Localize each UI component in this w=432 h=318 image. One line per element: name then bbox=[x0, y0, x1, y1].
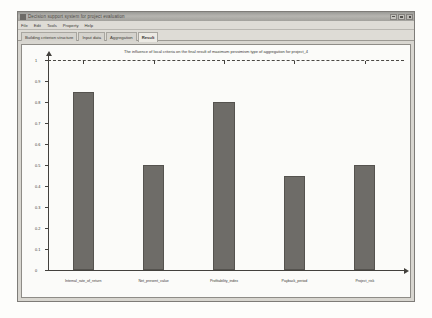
y-axis-tick bbox=[45, 60, 48, 61]
x-axis-tick bbox=[294, 61, 295, 64]
x-axis-label: Internal_rate_of_return bbox=[65, 279, 102, 283]
bar bbox=[73, 92, 94, 271]
title-bar: Decision support system for project eval… bbox=[18, 12, 414, 21]
tab-result[interactable]: Result bbox=[138, 32, 159, 42]
tab-input-data[interactable]: Input data bbox=[78, 32, 105, 41]
y-axis-tick bbox=[45, 165, 48, 166]
y-axis-tick-label: 0.4 bbox=[35, 185, 44, 189]
tab-strip: Building criterion structure Input data … bbox=[18, 30, 414, 41]
minimize-button[interactable] bbox=[390, 14, 397, 20]
y-axis-tick-label: 0.8 bbox=[35, 101, 44, 105]
x-axis-line bbox=[48, 270, 404, 271]
bar bbox=[284, 176, 305, 271]
menu-item-property[interactable]: Property bbox=[63, 23, 79, 28]
y-axis-tick bbox=[45, 81, 48, 82]
menu-item-help[interactable]: Help bbox=[85, 23, 94, 28]
bar bbox=[354, 165, 375, 270]
y-axis-line bbox=[48, 55, 49, 271]
y-axis-tick bbox=[45, 144, 48, 145]
window-title: Decision support system for project eval… bbox=[28, 14, 389, 19]
y-axis-tick bbox=[45, 102, 48, 103]
y-axis-tick-label: 0.3 bbox=[35, 206, 44, 210]
menu-item-tools[interactable]: Tools bbox=[47, 23, 57, 28]
x-axis-label: Net_present_value bbox=[139, 279, 169, 283]
x-axis-tick bbox=[83, 61, 84, 64]
menu-item-file[interactable]: File bbox=[21, 23, 28, 28]
page-background: Decision support system for project eval… bbox=[0, 0, 432, 318]
y-axis-tick bbox=[45, 249, 48, 250]
application-window: Decision support system for project eval… bbox=[17, 11, 415, 302]
bar bbox=[213, 102, 234, 270]
y-axis-tick bbox=[45, 186, 48, 187]
y-axis-tick-label: 0.5 bbox=[35, 164, 44, 168]
y-axis-tick-label: 0.2 bbox=[35, 227, 44, 231]
y-axis-tick bbox=[45, 123, 48, 124]
application-icon bbox=[20, 14, 26, 20]
chart-panel: The influence of local criteria on the f… bbox=[21, 44, 411, 298]
y-axis-tick-label: 0 bbox=[35, 269, 44, 273]
y-axis-tick bbox=[45, 270, 48, 271]
x-axis-label: Project_risk bbox=[355, 279, 374, 283]
tab-strip-filler bbox=[159, 39, 414, 40]
y-axis-tick bbox=[45, 207, 48, 208]
y-axis-tick-label: 0.6 bbox=[35, 143, 44, 147]
x-axis-label: Payback_period bbox=[282, 279, 308, 283]
y-axis-tick-label: 0.9 bbox=[35, 80, 44, 84]
threshold-line bbox=[48, 60, 404, 61]
close-button[interactable] bbox=[406, 14, 413, 20]
bar bbox=[143, 165, 164, 270]
y-axis-tick-label: 0.1 bbox=[35, 248, 44, 252]
menu-item-edit[interactable]: Edit bbox=[34, 23, 41, 28]
y-axis-tick-label: 0.7 bbox=[35, 122, 44, 126]
plot-area: 00.10.20.30.40.50.60.70.80.91 Internal_r… bbox=[48, 61, 400, 271]
menu-bar: File Edit Tools Property Help bbox=[18, 21, 414, 30]
x-axis-tick bbox=[224, 61, 225, 64]
tab-aggregation[interactable]: Aggregation bbox=[106, 32, 137, 41]
x-axis-label: Profitability_index bbox=[210, 279, 238, 283]
x-axis-tick bbox=[154, 61, 155, 64]
x-axis-tick bbox=[365, 61, 366, 64]
x-axis-arrow bbox=[404, 268, 409, 274]
chart-title: The influence of local criteria on the f… bbox=[22, 49, 410, 54]
content-area: The influence of local criteria on the f… bbox=[18, 41, 414, 301]
tab-building-criterion-structure[interactable]: Building criterion structure bbox=[21, 32, 77, 41]
y-axis-tick-label: 1 bbox=[35, 59, 44, 63]
maximize-button[interactable] bbox=[398, 14, 405, 20]
y-axis-tick bbox=[45, 228, 48, 229]
y-axis-arrow bbox=[46, 51, 52, 56]
